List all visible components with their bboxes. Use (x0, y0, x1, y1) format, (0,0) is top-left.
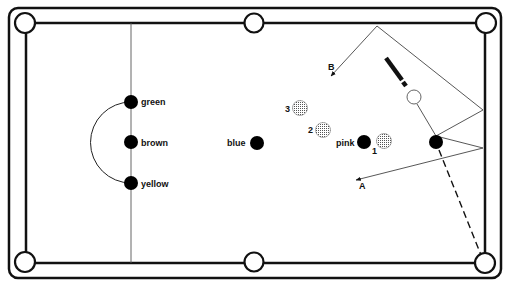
pocket-bottom-middle (245, 253, 264, 272)
ball-cue (429, 135, 443, 149)
path-b-line (331, 26, 377, 76)
ball-red-3 (293, 101, 308, 116)
label-path-b: B (328, 62, 335, 72)
label-red-1: 1 (372, 146, 377, 156)
label-brown: brown (141, 138, 168, 148)
label-red-3: 3 (285, 104, 290, 114)
cue-ball-aim-line (417, 104, 436, 136)
pocket-bottom-right (475, 253, 495, 273)
pocket-bottom-left (15, 252, 35, 272)
ball-blue (250, 136, 264, 150)
label-red-2: 2 (308, 125, 313, 135)
pocket-top-right (476, 13, 496, 33)
pocket-top-middle (245, 14, 264, 33)
ghost-ball (407, 90, 421, 104)
label-pink: pink (336, 138, 355, 148)
snooker-table-diagram: green brown yellow blue pink 1 2 3 A B (0, 0, 510, 285)
ball-green (124, 95, 138, 109)
cushion-path-3 (436, 136, 483, 148)
label-green: green (141, 97, 166, 107)
ball-brown (124, 135, 138, 149)
label-blue: blue (227, 138, 246, 148)
cue-tip (403, 82, 406, 86)
pot-path-dashed (439, 150, 481, 255)
ball-pink (357, 135, 371, 149)
ball-red-2 (316, 123, 331, 138)
ball-yellow (124, 176, 138, 190)
pocket-top-left (15, 13, 35, 33)
cushion-path-2 (436, 110, 483, 136)
ball-red-1 (377, 134, 392, 149)
label-path-a: A (359, 181, 366, 191)
label-yellow: yellow (141, 179, 170, 189)
cue-stick (386, 58, 402, 80)
